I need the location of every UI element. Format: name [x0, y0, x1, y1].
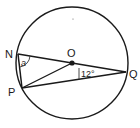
- label-N: N: [5, 48, 13, 60]
- center-point-O: [69, 60, 74, 65]
- stray-dot: [72, 18, 73, 19]
- label-Q: Q: [129, 68, 138, 80]
- label-angle-12: 12°: [81, 69, 95, 79]
- label-angle-a: a: [21, 58, 26, 68]
- label-P: P: [8, 86, 15, 98]
- circle-diagram: N P O Q a 12°: [0, 0, 140, 128]
- label-O: O: [67, 47, 76, 59]
